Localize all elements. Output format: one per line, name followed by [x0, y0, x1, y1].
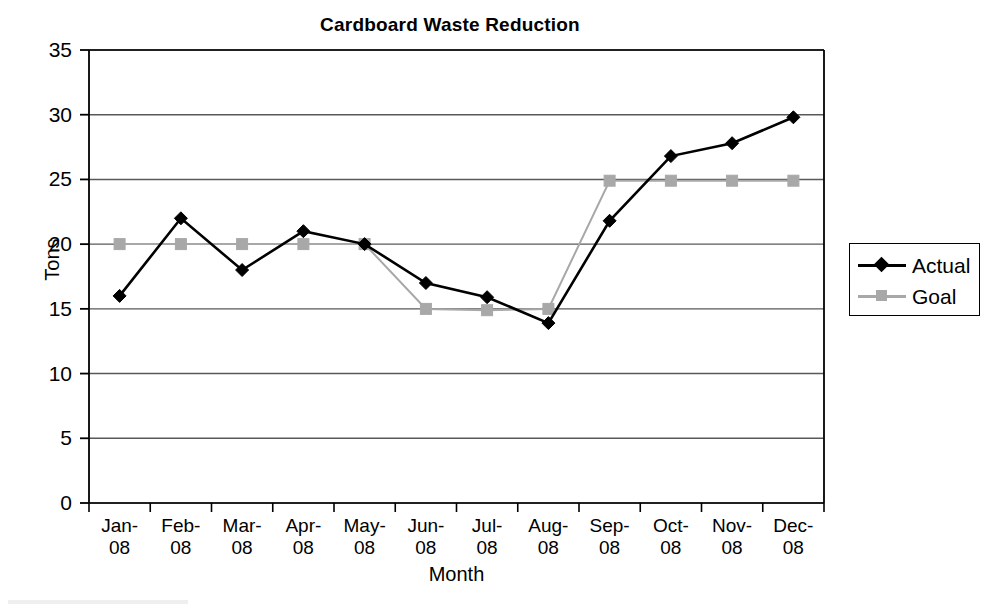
diamond-marker-icon: [874, 257, 890, 273]
y-tick-label: 35: [24, 39, 72, 60]
x-tick-label: Sep-08: [579, 515, 641, 559]
square-marker-icon: [876, 290, 887, 301]
x-tick-label: Nov-08: [701, 515, 763, 559]
legend-item-goal: Goal: [850, 281, 981, 311]
x-tick-label-line: Feb-: [150, 515, 212, 537]
y-tick-label: 20: [24, 233, 72, 254]
legend-item-actual: Actual: [850, 250, 981, 280]
x-tick-label: Oct-08: [640, 515, 702, 559]
x-tick-label-line: 08: [640, 537, 702, 559]
x-tick-label-line: 08: [272, 537, 334, 559]
y-tick-label: 25: [24, 168, 72, 189]
x-tick-label-line: 08: [334, 537, 396, 559]
y-tick-label: 0: [24, 492, 72, 513]
x-tick-label-line: Jan-: [89, 515, 151, 537]
y-tick-label: 30: [24, 104, 72, 125]
x-tick-label-line: Mar-: [211, 515, 273, 537]
x-tick-label: Jun-08: [395, 515, 457, 559]
x-tick-label-line: 08: [517, 537, 579, 559]
x-tick-label: Dec-08: [762, 515, 824, 559]
x-tick-label-line: May-: [334, 515, 396, 537]
x-tick-label-line: 08: [395, 537, 457, 559]
chart-container: Cardboard Waste Reduction Tons Month 051…: [0, 0, 997, 612]
x-tick-label-line: Sep-: [579, 515, 641, 537]
x-axis-tick-marks: [89, 503, 824, 512]
x-tick-label-line: Oct-: [640, 515, 702, 537]
x-tick-label-line: 08: [89, 537, 151, 559]
x-tick-label-line: Dec-: [762, 515, 824, 537]
series-actual: [113, 111, 800, 330]
x-tick-label-line: Jun-: [395, 515, 457, 537]
legend: Actual Goal: [849, 243, 980, 316]
x-tick-label-line: Nov-: [701, 515, 763, 537]
x-tick-label: Mar-08: [211, 515, 273, 559]
plot-frame: [89, 50, 824, 503]
legend-swatch-actual: [856, 255, 908, 275]
x-tick-label: Jan-08: [89, 515, 151, 559]
x-tick-label-line: Apr-: [272, 515, 334, 537]
series-goal: [114, 175, 799, 316]
x-tick-label-line: 08: [762, 537, 824, 559]
x-tick-label-line: 08: [579, 537, 641, 559]
y-axis-tick-marks: [80, 50, 89, 503]
legend-label-actual: Actual: [912, 255, 970, 276]
x-tick-label-line: 08: [211, 537, 273, 559]
x-tick-label-line: Jul-: [456, 515, 518, 537]
legend-label-goal: Goal: [912, 286, 956, 307]
gridlines: [89, 50, 824, 503]
y-tick-label: 15: [24, 298, 72, 319]
x-tick-label-line: 08: [150, 537, 212, 559]
y-tick-label: 5: [24, 427, 72, 448]
x-tick-label-line: 08: [456, 537, 518, 559]
y-tick-label: 10: [24, 363, 72, 384]
x-tick-label: Jul-08: [456, 515, 518, 559]
x-tick-label: May-08: [334, 515, 396, 559]
legend-swatch-goal: [856, 286, 908, 306]
x-tick-label: Aug-08: [517, 515, 579, 559]
x-tick-label: Apr-08: [272, 515, 334, 559]
scan-artifact: [8, 600, 188, 604]
x-tick-label-line: 08: [701, 537, 763, 559]
x-tick-label-line: Aug-: [517, 515, 579, 537]
x-tick-label: Feb-08: [150, 515, 212, 559]
series-layer: [113, 111, 800, 330]
